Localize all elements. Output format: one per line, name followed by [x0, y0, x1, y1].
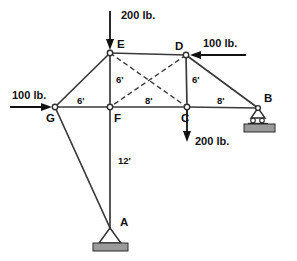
member-GA — [55, 107, 110, 228]
load-e-arrowhead — [106, 39, 114, 50]
joint-label-C: C — [181, 112, 189, 124]
joint-E — [107, 50, 112, 55]
load-g-arrowhead — [41, 103, 52, 111]
pin-triangle-a — [99, 228, 121, 243]
dimension-CB-8ft: 8' — [217, 95, 225, 106]
joint-C — [184, 104, 189, 109]
dimension-EF-6ft: 6' — [116, 74, 124, 85]
roller-wheel-left — [251, 118, 256, 123]
joint-D — [183, 52, 188, 57]
joint-label-A: A — [120, 216, 128, 228]
load-arrow-c: 200 lb. — [183, 110, 229, 147]
joint-B — [256, 106, 261, 111]
joint-F — [107, 104, 112, 109]
load-d-label: 100 lb. — [203, 37, 237, 49]
dimension-labels: 6' 6' 6' 8' 8' 12' — [77, 74, 225, 166]
truss-diagram: 200 lb. 100 lb. 100 lb. 200 lb. A B C D … — [0, 0, 297, 261]
joint-label-B: B — [264, 92, 272, 104]
joint-label-D: D — [175, 40, 183, 52]
support-pin-a — [93, 228, 128, 251]
support-roller-b — [244, 108, 275, 132]
load-c-label: 200 lb. — [195, 135, 229, 147]
joint-G — [52, 104, 57, 109]
joint-label-F: F — [114, 112, 121, 124]
load-g-label: 100 lb. — [12, 89, 46, 101]
ground-hatch-a — [93, 243, 128, 251]
dimension-GF-6ft: 6' — [77, 95, 85, 106]
load-e-label: 200 lb. — [121, 9, 155, 21]
joint-label-G: G — [46, 112, 55, 124]
joint-labels: A B C D E F G — [46, 38, 272, 228]
member-CB — [187, 107, 258, 108]
load-arrow-g: 100 lb. — [10, 89, 52, 111]
load-arrow-e: 200 lb. — [106, 9, 155, 50]
ground-hatch-b — [244, 124, 275, 132]
load-arrow-d: 100 lb. — [190, 37, 246, 59]
joint-label-E: E — [117, 38, 125, 50]
dimension-DC-6ft: 6' — [192, 74, 200, 85]
dimension-FA-12ft: 12' — [118, 155, 131, 166]
member-DC — [186, 55, 187, 107]
member-ED — [110, 53, 186, 55]
load-d-arrowhead — [190, 51, 201, 59]
roller-wheel-right — [260, 118, 265, 123]
dimension-FC-8ft: 8' — [145, 95, 153, 106]
load-c-arrowhead — [183, 131, 191, 142]
